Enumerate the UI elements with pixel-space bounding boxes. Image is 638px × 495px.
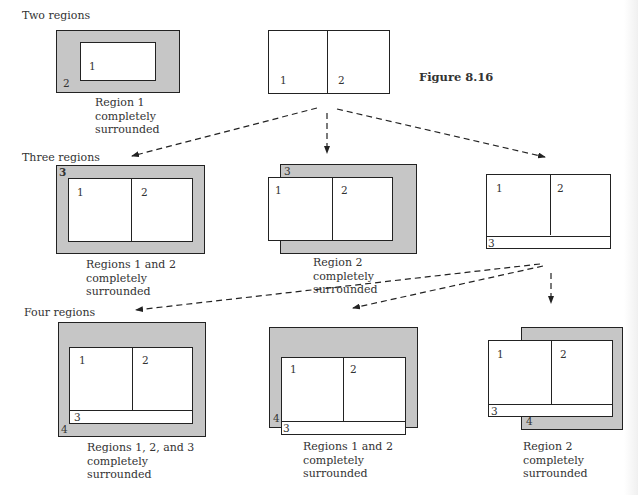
row1-left-region-1: 1 — [80, 42, 156, 81]
region-label: 3 — [491, 406, 498, 417]
row2-right-regions: 1 2 3 — [486, 174, 611, 249]
region-label: 1 — [79, 355, 86, 366]
row3-left-caption: Regions 1, 2, and 3 completely surrounde… — [87, 441, 194, 482]
region-label: 1 — [89, 61, 96, 72]
arrow-to-four-middle — [353, 266, 543, 308]
region-label: 1 — [290, 364, 297, 375]
arrow-to-three-left — [132, 108, 317, 156]
region-divider — [327, 31, 328, 93]
row1-right-regions: 1 2 — [268, 30, 390, 94]
region-label: 3 — [74, 412, 81, 423]
row1-left-caption: Region 1 completely surrounded — [95, 96, 160, 137]
row3-left-regions-1-2-3: 1 2 3 — [69, 347, 193, 424]
region-label: 2 — [142, 355, 149, 366]
region-label: 4 — [61, 424, 68, 435]
heading-two-regions: Two regions — [22, 9, 90, 22]
figure-title: Figure 8.16 — [419, 70, 493, 84]
region-divider — [132, 348, 133, 410]
region-divider — [131, 179, 132, 241]
region-divider — [343, 358, 344, 421]
region-divider-horizontal — [487, 236, 610, 237]
region-label: 1 — [280, 75, 287, 86]
page-edge-shadow — [624, 0, 638, 495]
region-label: 2 — [141, 187, 148, 198]
row3-right-regions-1-2-3: 1 2 3 — [488, 340, 613, 417]
region-label: 3 — [284, 166, 291, 177]
region-label: 2 — [560, 349, 567, 360]
row3-middle-regions-1-2-3: 1 2 3 — [281, 357, 406, 435]
region-divider — [550, 175, 551, 235]
region-label: 1 — [497, 349, 504, 360]
heading-three-regions: Three regions — [22, 151, 100, 164]
region-divider-horizontal — [282, 421, 405, 422]
row2-left-caption: Regions 1 and 2 completely surrounded — [86, 258, 176, 299]
region-label: 2 — [557, 183, 564, 194]
region-divider-horizontal — [70, 410, 192, 411]
region-label: 2 — [338, 75, 345, 86]
region-label: 1 — [496, 183, 503, 194]
row2-middle-regions-1-2: 1 2 — [268, 177, 393, 241]
row3-right-caption: Region 2 completely surrounded — [523, 440, 588, 481]
region-label: 2 — [63, 78, 70, 89]
region-label: 3 — [59, 167, 66, 178]
row2-left-regions-1-2: 1 2 — [68, 178, 193, 242]
region-label: 3 — [488, 238, 495, 249]
row2-middle-caption: Region 2 completely surrounded — [313, 256, 378, 297]
region-label: 2 — [341, 185, 348, 196]
region-label: 2 — [350, 364, 357, 375]
region-divider — [332, 178, 333, 240]
region-divider — [551, 341, 552, 404]
region-label: 1 — [275, 185, 282, 196]
region-label: 4 — [526, 416, 533, 427]
region-divider-horizontal — [489, 404, 612, 405]
region-label: 4 — [273, 413, 280, 424]
region-label: 1 — [77, 187, 84, 198]
row3-middle-caption: Regions 1 and 2 completely surrounded — [303, 440, 393, 481]
heading-four-regions: Four regions — [24, 306, 95, 319]
region-label: 3 — [283, 423, 290, 434]
arrow-to-three-right — [337, 109, 545, 157]
